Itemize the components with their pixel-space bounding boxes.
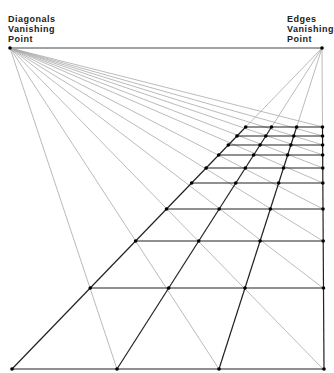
grid-point (235, 134, 239, 138)
grid-point (270, 125, 274, 129)
edge-construction-line (297, 48, 322, 127)
grid-point (252, 153, 256, 157)
grid-point (244, 125, 248, 129)
grid-point (227, 143, 231, 147)
grid-point (322, 367, 326, 371)
grid-point (165, 207, 169, 211)
grid-point (286, 153, 290, 157)
grid-point (244, 166, 248, 170)
grid-edge-line (12, 127, 246, 369)
grid-point (10, 367, 14, 371)
grid-point (321, 239, 325, 243)
grid-point (321, 181, 325, 185)
grid-point (88, 286, 92, 290)
grid-point (264, 134, 268, 138)
grid-point (243, 286, 247, 290)
grid-point (167, 286, 171, 290)
grid-point (295, 125, 299, 129)
grid-point (134, 239, 138, 243)
grid-edge-line (219, 127, 297, 369)
grid-point (269, 207, 273, 211)
grid-point (282, 166, 286, 170)
grid-point (322, 286, 326, 290)
perspective-grid-diagram (0, 0, 334, 373)
grid-point (217, 367, 221, 371)
grid-point (321, 134, 325, 138)
diagonal-construction-line (10, 48, 117, 369)
grid-point (321, 166, 325, 170)
grid-point (321, 207, 325, 211)
diagonals-vanishing-point (8, 46, 12, 50)
grid-point (292, 134, 296, 138)
grid-point (277, 181, 281, 185)
grid-point (115, 367, 119, 371)
diagonal-construction-line (10, 48, 323, 168)
grid-point (190, 181, 194, 185)
grid-point (289, 143, 293, 147)
grid-point (217, 207, 221, 211)
grid-point (321, 143, 325, 147)
diagonal-construction-line (10, 48, 323, 155)
diagonal-construction-line (10, 48, 323, 209)
grid-point (321, 125, 325, 129)
edge-construction-line (272, 48, 322, 127)
grid-edge-line (322, 127, 324, 369)
grid-point (258, 239, 262, 243)
edge-construction-line (246, 48, 322, 127)
grid-point (234, 181, 238, 185)
diagonal-construction-line (10, 48, 323, 136)
grid-point (258, 143, 262, 147)
grid-point (217, 153, 221, 157)
grid-point (321, 153, 325, 157)
grid-point (204, 166, 208, 170)
edges-vanishing-point (320, 46, 324, 50)
grid-point (197, 239, 201, 243)
